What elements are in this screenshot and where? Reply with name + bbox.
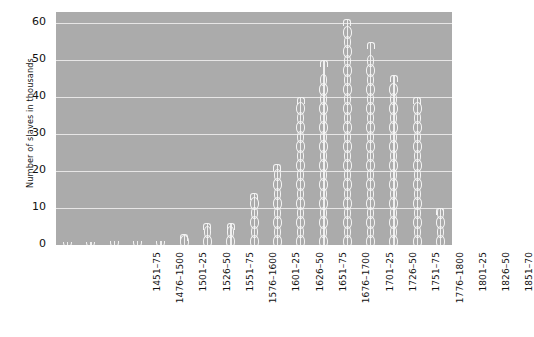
x-tick-label: 1601–25 [291, 252, 301, 332]
x-tick-label: 1651–75 [338, 252, 348, 332]
x-tick-label: 1451–75 [152, 252, 162, 332]
x-tick-label: 1801–25 [478, 252, 488, 332]
x-tick-label: 1701–25 [385, 252, 395, 332]
x-tick-label: 1726–50 [408, 252, 418, 332]
x-tick-label: 1526–50 [222, 252, 232, 332]
x-tick-label: 1551–75 [245, 252, 255, 332]
x-tick-label: 1851–70 [524, 252, 534, 332]
x-tick-label: 1476–1500 [175, 252, 185, 332]
x-tick-label: 1676–1700 [361, 252, 371, 332]
x-tick-label: 1826–50 [501, 252, 511, 332]
x-tick-label: 1626–50 [315, 252, 325, 332]
x-tick-label: 1776–1800 [455, 252, 465, 332]
x-tick-label: 1751–75 [431, 252, 441, 332]
x-tick-label: 1501–25 [198, 252, 208, 332]
x-tick-label: 1576–1600 [268, 252, 278, 332]
